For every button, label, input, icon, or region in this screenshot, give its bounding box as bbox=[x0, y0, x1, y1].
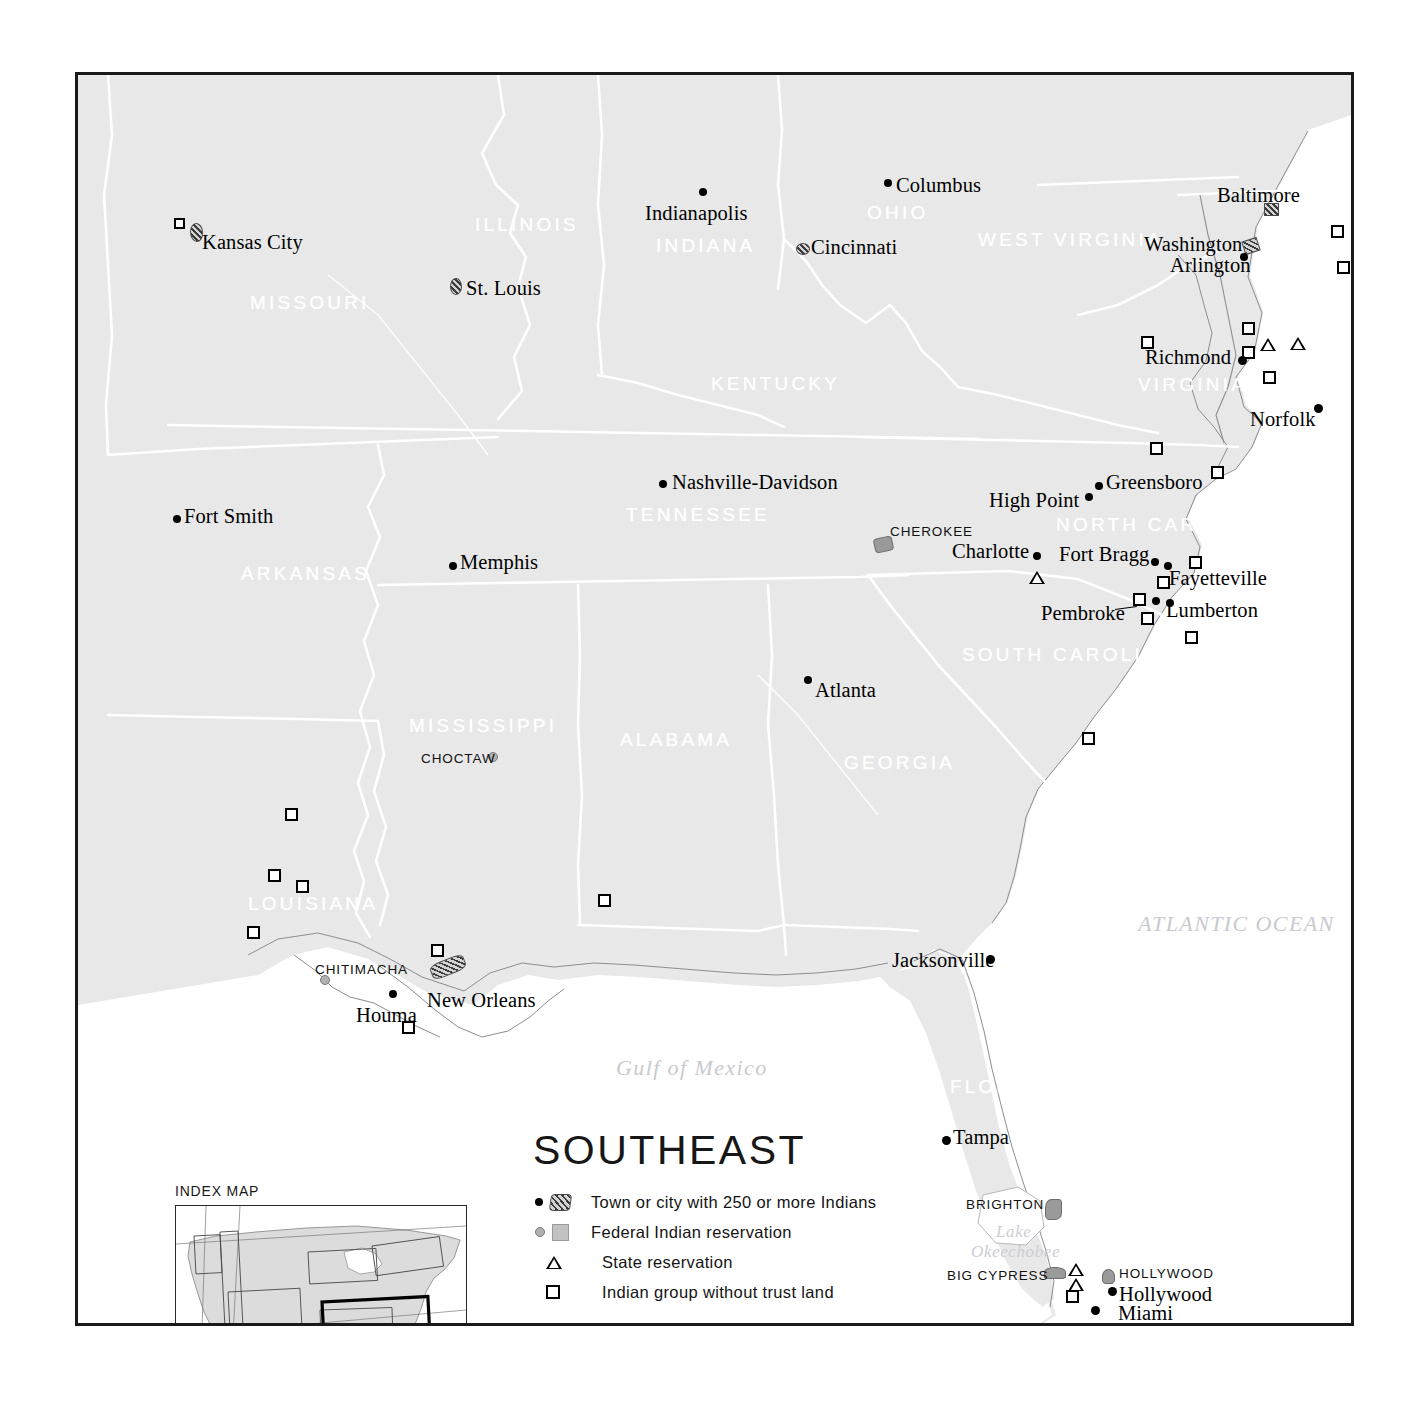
city-label: Fort Bragg bbox=[1059, 544, 1149, 565]
lake-label-line2: Okeechobee bbox=[971, 1243, 1060, 1260]
state-reservation-triangle-icon bbox=[1290, 337, 1306, 350]
state-reservation-triangle-icon bbox=[1260, 338, 1276, 351]
ocean-label: ATLANTIC OCEAN bbox=[1138, 913, 1335, 935]
index-map-box bbox=[175, 1205, 467, 1326]
legend: Town or city with 250 or more Indians Fe… bbox=[533, 1187, 963, 1307]
city-hatched-area-icon bbox=[796, 243, 810, 255]
city-dot-icon bbox=[1108, 1287, 1117, 1296]
reservation-label: CHEROKEE bbox=[890, 525, 973, 539]
open-square-icon bbox=[1066, 1290, 1079, 1303]
city-dot-icon bbox=[1033, 552, 1041, 560]
state-reservation-triangle-icon bbox=[1068, 1263, 1084, 1276]
city-label: Houma bbox=[356, 1005, 417, 1026]
open-square-icon bbox=[1150, 442, 1163, 455]
city-label: Richmond bbox=[1145, 347, 1231, 368]
city-dot-icon bbox=[389, 990, 397, 998]
index-map: INDEX MAP bbox=[175, 1183, 467, 1326]
state-label: ALABAMA bbox=[620, 730, 732, 749]
open-square-icon bbox=[1082, 732, 1095, 745]
legend-row: Federal Indian reservation bbox=[533, 1217, 963, 1247]
open-square-icon bbox=[1263, 371, 1276, 384]
reservation-label: HOLLYWOOD bbox=[1119, 1267, 1214, 1281]
open-square-icon bbox=[296, 880, 309, 893]
city-label: Miami bbox=[1118, 1303, 1173, 1324]
index-map-title: INDEX MAP bbox=[175, 1183, 467, 1199]
city-label: Jacksonville bbox=[892, 950, 995, 971]
legend-row: Town or city with 250 or more Indians bbox=[533, 1187, 963, 1217]
city-dot-icon bbox=[884, 179, 892, 187]
legend-symbols bbox=[533, 1194, 591, 1211]
state-reservation-triangle-icon bbox=[1068, 1278, 1084, 1291]
legend-symbols bbox=[533, 1285, 602, 1299]
city-dot-icon bbox=[173, 515, 181, 523]
state-label: SOUTH CAROLINA bbox=[962, 645, 1176, 664]
open-square-icon bbox=[285, 808, 298, 821]
open-square-icon bbox=[247, 926, 260, 939]
lake-label-line1: Lake bbox=[996, 1223, 1031, 1240]
open-square-icon bbox=[546, 1285, 560, 1299]
city-dot-icon bbox=[535, 1198, 543, 1206]
state-label: ARKANSAS bbox=[241, 564, 370, 583]
open-square-icon bbox=[431, 944, 444, 957]
open-square-icon bbox=[1337, 261, 1350, 274]
legend-label: State reservation bbox=[602, 1253, 733, 1272]
city-label: Fayetteville bbox=[1169, 568, 1267, 589]
city-label: Tampa bbox=[953, 1127, 1009, 1148]
city-label: Kansas City bbox=[202, 232, 303, 253]
city-dot-icon bbox=[659, 480, 667, 488]
city-hatched-area-icon bbox=[450, 278, 462, 295]
city-label: Memphis bbox=[460, 552, 538, 573]
gulf-label: Gulf of Mexico bbox=[616, 1057, 768, 1079]
map-title: SOUTHEAST bbox=[533, 1127, 806, 1174]
state-reservation-triangle-icon bbox=[1029, 571, 1045, 584]
legend-symbols bbox=[533, 1224, 591, 1241]
city-dot-icon bbox=[1085, 493, 1093, 501]
index-map-geometry bbox=[176, 1206, 466, 1326]
city-label: Lumberton bbox=[1166, 600, 1258, 621]
city-dot-icon bbox=[1238, 356, 1247, 365]
legend-label: Town or city with 250 or more Indians bbox=[591, 1193, 876, 1212]
city-dot-icon bbox=[1152, 597, 1160, 605]
state-label: NORTH CAROLINA bbox=[1056, 515, 1270, 534]
map-frame: MISSOURI ILLINOIS INDIANA OHIO WEST VIRG… bbox=[75, 72, 1354, 1326]
state-label: OHIO bbox=[867, 203, 928, 222]
city-dot-icon bbox=[1151, 558, 1159, 566]
legend-row: Indian group without trust land bbox=[533, 1277, 963, 1307]
state-label: MISSISSIPPI bbox=[409, 716, 557, 735]
city-dot-icon bbox=[1091, 1306, 1100, 1315]
state-label: FLORIDA bbox=[950, 1077, 1055, 1096]
reservation-label: CHOCTAW bbox=[421, 752, 496, 766]
open-square-icon bbox=[1331, 225, 1344, 238]
city-dot-icon bbox=[1095, 482, 1103, 490]
city-label: Arlington bbox=[1170, 255, 1251, 276]
legend-label: Federal Indian reservation bbox=[591, 1223, 792, 1242]
city-label: Washington bbox=[1144, 234, 1242, 255]
state-label: TENNESSEE bbox=[626, 505, 770, 524]
state-label: INDIANA bbox=[656, 236, 755, 255]
state-label: DEL bbox=[1336, 240, 1354, 255]
city-label: Cincinnati bbox=[811, 237, 897, 258]
city-dot-icon bbox=[942, 1136, 951, 1145]
city-dot-icon bbox=[449, 562, 457, 570]
open-square-icon bbox=[1141, 612, 1154, 625]
federal-reservation-area-icon bbox=[1045, 1199, 1062, 1220]
legend-label: Indian group without trust land bbox=[602, 1283, 834, 1302]
federal-reservation-area-icon bbox=[1102, 1269, 1115, 1284]
city-label: New Orleans bbox=[427, 990, 536, 1011]
reservation-label: CHITIMACHA bbox=[315, 963, 408, 977]
city-label: Charlotte bbox=[952, 541, 1029, 562]
open-square-icon bbox=[1242, 322, 1255, 335]
state-label: KENTUCKY bbox=[711, 374, 840, 393]
city-hatched-area-icon bbox=[549, 1194, 572, 1211]
city-label: Norfolk bbox=[1250, 409, 1316, 430]
city-dot-icon bbox=[804, 676, 812, 684]
open-square-icon bbox=[174, 218, 185, 229]
city-label: Indianapolis bbox=[645, 203, 748, 224]
city-label: Fort Smith bbox=[184, 506, 273, 527]
state-label: GEORGIA bbox=[844, 753, 955, 772]
city-label: Columbus bbox=[896, 175, 981, 196]
state-label: VIRGINIA bbox=[1138, 375, 1247, 394]
city-dot-icon bbox=[699, 188, 707, 196]
federal-reservation-dot-icon bbox=[535, 1227, 545, 1237]
city-label: Nashville-Davidson bbox=[672, 472, 838, 493]
